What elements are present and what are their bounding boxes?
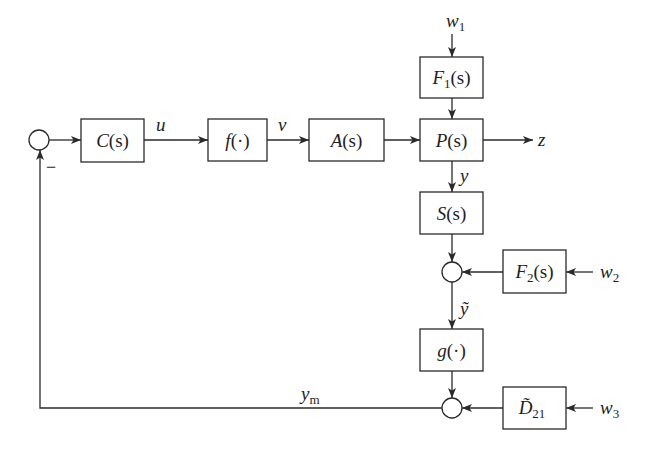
signal-label-w2: w2 (600, 261, 619, 285)
summing-junction-measurement (442, 398, 462, 418)
signal-label-z: z (537, 129, 546, 150)
svg-text:f(·): f(·) (225, 130, 249, 152)
block-sensor-s: S(s) (420, 192, 483, 234)
signal-label-y-m: ym (299, 383, 320, 407)
block-disturbance-filter-f1: F1(s) (420, 57, 483, 98)
svg-text:A(s): A(s) (329, 130, 363, 152)
block-actuator-a: A(s) (309, 119, 384, 161)
block-noise-filter-f2: F2(s) (503, 250, 566, 293)
summing-junction-input: − (29, 130, 56, 177)
wire-feedback-ym (40, 150, 442, 408)
signal-label-w3: w3 (600, 397, 619, 421)
diagram-svg: − C(s) f(·) A(s) P(s) F1(s) S(s) F2(s) g… (0, 0, 646, 454)
block-controller-c: C(s) (81, 119, 144, 162)
svg-text:g(·): g(·) (437, 340, 465, 362)
minus-sign: − (46, 157, 56, 177)
svg-text:C(s): C(s) (96, 130, 129, 152)
block-diagram: − C(s) f(·) A(s) P(s) F1(s) S(s) F2(s) g… (0, 0, 646, 454)
svg-text:F1(s): F1(s) (431, 67, 470, 91)
signal-label-y: y (458, 165, 469, 186)
signal-label-y-tilde: ỹ (458, 298, 469, 319)
block-d21: D̃21 (503, 387, 566, 429)
block-nonlinearity-g: g(·) (420, 329, 483, 371)
svg-text:S(s): S(s) (437, 203, 467, 225)
signal-label-w1: w1 (446, 10, 465, 34)
svg-text:F2(s): F2(s) (514, 261, 553, 285)
signal-label-u: u (156, 114, 166, 135)
block-nonlinearity-f: f(·) (208, 119, 267, 161)
signal-label-v: v (278, 114, 287, 135)
block-plant-p: P(s) (420, 119, 483, 161)
svg-text:P(s): P(s) (435, 130, 468, 152)
summing-junction-noise (442, 262, 462, 282)
